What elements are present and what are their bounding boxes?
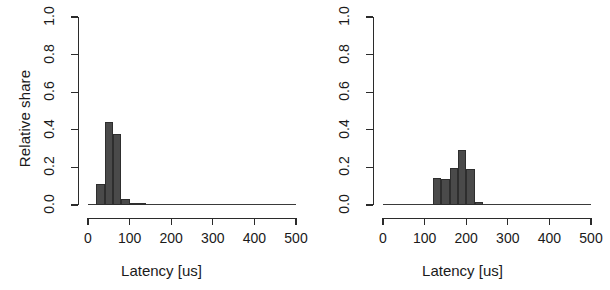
y-tick-label-right-2: 0.4	[336, 112, 352, 146]
histogram-bar	[450, 168, 458, 205]
x-tick-right-1	[424, 218, 425, 225]
x-tick-left-3	[212, 218, 213, 225]
histogram-bar	[458, 150, 466, 205]
y-tick-left-1	[71, 167, 78, 168]
x-tick-left-5	[295, 218, 296, 225]
x-tick-label-right-4: 400	[529, 230, 569, 246]
histogram-bar	[121, 199, 129, 205]
y-tick-left-2	[71, 129, 78, 130]
histogram-bar	[105, 122, 113, 205]
x-tick-label-right-1: 100	[405, 230, 445, 246]
y-tick-label-left-2: 0.4	[41, 112, 57, 146]
histogram-bar	[433, 178, 441, 205]
histogram-bar	[130, 203, 138, 205]
x-tick-right-3	[507, 218, 508, 225]
y-tick-label-left-4: 0.8	[41, 37, 57, 71]
histogram-bar	[113, 134, 121, 205]
x-tick-left-2	[171, 218, 172, 225]
x-tick-left-4	[254, 218, 255, 225]
histogram-bar	[466, 169, 474, 205]
panel-left-histogram: Relative share 0.00.20.40.60.81.00100200…	[0, 0, 305, 290]
histogram-bar	[138, 203, 146, 205]
histogram-bar	[96, 184, 104, 205]
plot-area-right: 0.00.20.40.60.81.00100200300400500	[383, 17, 591, 205]
y-tick-label-right-3: 0.6	[336, 74, 352, 108]
y-tick-label-left-1: 0.2	[41, 149, 57, 183]
x-tick-left-1	[129, 218, 130, 225]
y-tick-left-5	[71, 16, 78, 17]
y-tick-right-4	[366, 54, 373, 55]
x-axis-title-left: Latency [us]	[0, 262, 305, 279]
y-tick-label-left-5: 1.0	[41, 0, 57, 33]
x-tick-label-left-4: 400	[234, 230, 274, 246]
y-tick-label-right-5: 1.0	[336, 0, 352, 33]
x-axis-spine-left	[88, 218, 296, 219]
y-tick-right-0	[366, 204, 373, 205]
x-axis-title-right: Latency [us]	[305, 262, 610, 279]
y-tick-label-right-1: 0.2	[336, 149, 352, 183]
y-tick-label-right-4: 0.8	[336, 37, 352, 71]
y-tick-right-3	[366, 92, 373, 93]
x-tick-right-4	[549, 218, 550, 225]
x-tick-label-left-3: 300	[193, 230, 233, 246]
y-tick-label-left-0: 0.0	[41, 187, 57, 221]
plot-area-left: 0.00.20.40.60.81.00100200300400500	[88, 17, 296, 205]
histogram-figure: Relative share 0.00.20.40.60.81.00100200…	[0, 0, 610, 290]
x-tick-right-5	[590, 218, 591, 225]
x-tick-left-0	[87, 218, 88, 225]
x-tick-label-right-5: 500	[571, 230, 610, 246]
x-axis-spine-right	[383, 218, 591, 219]
panel-right-histogram: 0.00.20.40.60.81.00100200300400500 Laten…	[305, 0, 610, 290]
y-axis-spine-left	[78, 17, 79, 205]
y-tick-right-1	[366, 167, 373, 168]
y-tick-right-2	[366, 129, 373, 130]
x-tick-label-left-0: 0	[68, 230, 108, 246]
y-axis-title-left: Relative share	[16, 49, 33, 189]
zero-baseline-right	[383, 204, 591, 205]
y-tick-right-5	[366, 16, 373, 17]
x-tick-label-left-1: 100	[110, 230, 150, 246]
x-tick-label-right-2: 200	[446, 230, 486, 246]
histogram-bar	[441, 179, 449, 205]
x-tick-label-left-2: 200	[151, 230, 191, 246]
x-tick-right-0	[382, 218, 383, 225]
y-axis-spine-right	[373, 17, 374, 205]
y-tick-left-3	[71, 92, 78, 93]
y-tick-left-0	[71, 204, 78, 205]
y-tick-label-right-0: 0.0	[336, 187, 352, 221]
x-tick-label-right-3: 300	[488, 230, 528, 246]
x-tick-label-right-0: 0	[363, 230, 403, 246]
y-tick-left-4	[71, 54, 78, 55]
histogram-bar	[475, 202, 483, 205]
y-tick-label-left-3: 0.6	[41, 74, 57, 108]
x-tick-right-2	[466, 218, 467, 225]
